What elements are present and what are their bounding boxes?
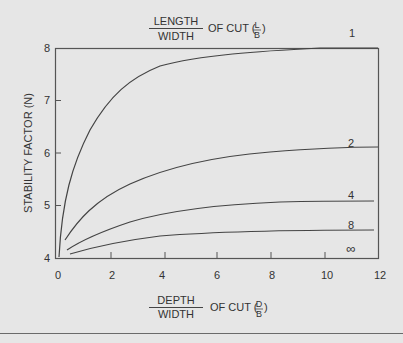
x-label-close: ) [264,301,268,313]
x-tick-0: 0 [55,269,61,281]
top-label-sym-num: L [254,20,259,30]
x-tick-8: 8 [269,269,275,281]
x-tick-4: 4 [159,269,165,281]
plot-frame [56,49,379,259]
x-tick-labels: 0 2 4 6 8 10 12 [55,269,386,281]
top-label-suffix: OF CUT ( [208,22,256,34]
x-label-sym-den: B [256,309,262,319]
curve-label-2: 2 [348,137,354,149]
x-axis-ticks [111,252,325,258]
x-tick-12: 12 [374,269,386,281]
y-tick-7: 7 [44,94,50,106]
top-label-denominator: WIDTH [158,30,194,42]
curve-label-1: 1 [349,27,355,39]
curve-lb-8 [70,230,374,254]
x-label-denominator: WIDTH [158,308,194,320]
top-label-numerator: LENGTH [154,15,199,27]
curve-label-4: 4 [348,189,354,201]
y-tick-6: 6 [44,147,50,159]
x-label-sym-num: D [256,299,263,309]
x-tick-10: 10 [321,269,333,281]
x-label-numerator: DEPTH [157,294,194,306]
curve-label-8: 8 [348,219,354,231]
stability-factor-chart: LENGTH WIDTH OF CUT ( L B ) 4 5 6 7 8 0 … [0,0,403,343]
curve-lb-4 [67,201,374,250]
y-tick-5: 5 [44,199,50,211]
curve-lb-1 [59,48,378,257]
top-label-sym-den: B [254,30,260,40]
x-tick-6: 6 [214,269,220,281]
top-label-close: ) [262,22,266,34]
curves [59,48,378,257]
x-tick-2: 2 [109,269,115,281]
top-axis-label: LENGTH WIDTH OF CUT ( L B ) [149,15,266,42]
y-tick-4: 4 [44,252,50,264]
y-tick-8: 8 [44,42,50,54]
y-tick-labels: 4 5 6 7 8 [44,42,50,264]
x-label-suffix: OF CUT ( [210,301,258,313]
curve-lb-2 [65,147,378,240]
curve-labels: 1 2 4 8 ∞ [346,27,355,256]
curve-label-infinity: ∞ [346,241,355,256]
y-axis-label: STABILITY FACTOR (N) [22,93,34,213]
x-axis-label: DEPTH WIDTH OF CUT ( D B ) [149,294,268,320]
bottom-divider [0,333,403,334]
